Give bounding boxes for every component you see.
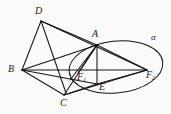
ellipse-label-alpha: α (151, 33, 156, 42)
segment-a-f2 (97, 45, 147, 70)
vertex-label-f1-subscript: 1 (83, 76, 86, 83)
vertex-label-e: E (99, 82, 105, 92)
vertex-label-f2: F2 (146, 70, 155, 81)
segment-b-a (22, 45, 97, 70)
vertex-label-f1: F1 (77, 72, 86, 83)
vertex-label-f2-subscript: 2 (152, 74, 155, 81)
vertex-label-c: C (60, 98, 67, 108)
vertex-label-b: B (8, 64, 14, 74)
vertex-label-a: A (92, 29, 98, 39)
diagram-canvas (0, 0, 171, 114)
vertex-label-d: D (35, 6, 42, 16)
ellipse-alpha (67, 36, 166, 98)
segment-d-b (22, 21, 41, 70)
geometry-figure: D A B C E F1 F2 α (0, 0, 171, 114)
